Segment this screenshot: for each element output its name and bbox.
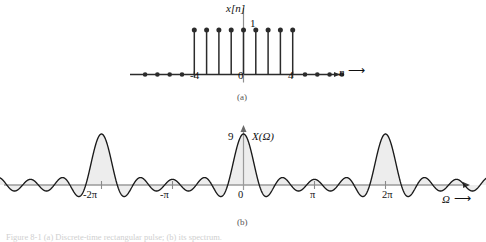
panel-a-signal-label: x[n] [226, 3, 245, 14]
panel-a-stem-plot [0, 0, 486, 105]
panel-a-amplitude-label: 1 [250, 18, 256, 29]
panel-a-axis-arrow-icon: ⟶ [348, 64, 365, 76]
panel-b-xtick-pi: π [310, 190, 315, 201]
panel-a-xtick-4: 4 [288, 70, 294, 81]
panel-b-xtick-zero: 0 [238, 190, 243, 201]
panel-a-tag: (a) [237, 93, 247, 102]
figure-caption: Figure 8-1 (a) Discrete-time rectangular… [6, 232, 222, 242]
panel-b-xtick-2pi: 2π [382, 190, 393, 201]
panel-b-axis-label: Ω [442, 194, 450, 205]
panel-b-xtick-minuspi: -π [160, 190, 169, 201]
panel-b-xtick-minus2pi: -2π [83, 190, 97, 201]
panel-a-xtick-minus4: -4 [190, 70, 199, 81]
panel-b-peak-label: 9 [228, 131, 234, 142]
panel-b-axis-arrow-icon: ⟶ [454, 192, 471, 204]
panel-a-axis-label: n [339, 67, 345, 78]
panel-b-spectrum-label: X(Ω) [252, 131, 274, 142]
panel-b-spectrum-plot [0, 112, 486, 227]
panel-b-tag: (b) [237, 218, 248, 227]
panel-a-xtick-zero: 0 [238, 70, 244, 81]
